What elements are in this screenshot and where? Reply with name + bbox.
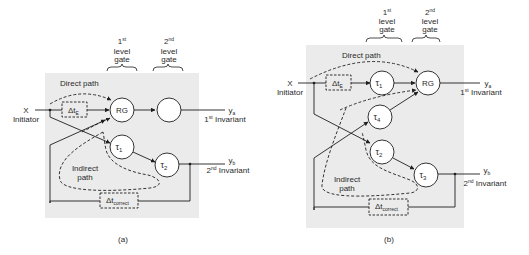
input-label-b: Initiator [277,88,304,97]
svg-text:gate: gate [114,55,130,64]
gate1-header-b: 1st level gate [366,7,402,42]
svg-text:gate: gate [161,55,177,64]
delay-correct-box-a: Δtcorrect [100,193,138,208]
tau1-node-b: τ1 [370,71,394,95]
svg-text:1st Invariant: 1st Invariant [204,114,246,124]
brace-gate1-a [107,64,137,71]
svg-text:1st Invariant: 1st Invariant [460,87,502,97]
input-x-a: X [23,106,29,115]
delay-e-box-b: ΔtE [326,75,351,90]
svg-text:gate: gate [422,25,438,34]
gate2-header-a: 2nd level gate [153,36,183,71]
tau2-node-b: τ2 [370,140,394,164]
direct-path-label-b: Direct path [342,51,381,60]
input-label-a: Initiator [13,115,40,124]
gate2-header-b: 2nd level gate [412,7,440,42]
brace-gate2-a [153,64,183,71]
delay-correct-box-b: Δtcorrect [369,199,408,215]
svg-text:1st: 1st [383,7,392,17]
svg-text:2nd: 2nd [164,36,174,46]
tau4-node-b: τ4 [368,105,392,129]
diagram-canvas: 1st level gate 2nd level gate X Initiato… [0,0,529,255]
caption-a: (a) [118,235,128,244]
svg-text:1st: 1st [118,36,127,46]
tau1-node-a: τ1 [110,135,134,159]
indirect-path-label-b-2: path [339,184,355,193]
svg-text:gate: gate [379,25,395,34]
brace-gate2-b [412,35,440,42]
indirect-path-label-a: Indirect [72,164,99,173]
gate1-header-a: 1st level gate [107,36,137,71]
panel-b: 1st level gate 2nd level gate X Initiato… [277,7,507,244]
output-a-first-invariant-b: ya 1st Invariant [460,79,502,97]
svg-text:2nd Invariant: 2nd Invariant [464,178,508,188]
caption-b: (b) [384,235,394,244]
svg-text:RG: RG [116,106,128,115]
input-x-b: X [287,79,293,88]
rg-gate-a: RG [110,98,134,122]
indirect-path-label-a-2: path [77,173,93,182]
direct-path-label-a: Direct path [60,79,99,88]
tau2-node-a: τ2 [155,153,179,177]
delay-e-box-a: ΔtE [62,102,87,117]
output-b-second-invariant: yb 2nd Invariant [207,156,251,175]
tau3-node-b: τ3 [414,163,438,187]
rg-gate-b: RG [416,71,440,95]
panel-a: 1st level gate 2nd level gate X Initiato… [13,36,250,244]
svg-text:RG: RG [422,79,434,88]
second-level-gate-a [157,98,181,122]
indirect-path-label-b: Indirect [334,175,361,184]
brace-gate1-b [366,35,402,42]
svg-text:yb: yb [229,156,236,166]
svg-text:yb: yb [484,166,491,176]
svg-text:2nd: 2nd [425,7,435,17]
output-a-first-invariant: ya 1st Invariant [204,106,246,124]
svg-text:2nd Invariant: 2nd Invariant [207,165,251,175]
output-b-second-invariant-b: yb 2nd Invariant [464,166,508,188]
